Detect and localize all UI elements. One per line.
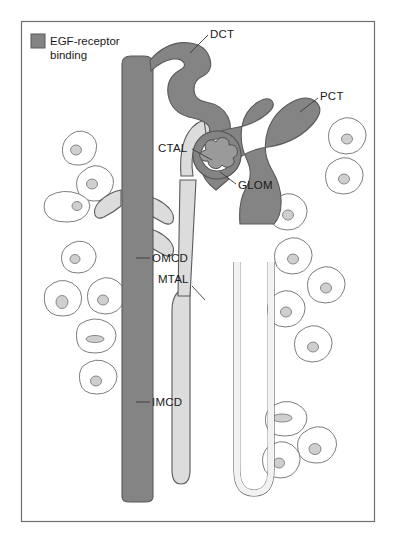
- cell: [44, 280, 81, 316]
- nephron-figure: DCT PCT CTAL GLOM OMCD MTAL IMCD EGF-rec…: [0, 0, 408, 547]
- label-glom: GLOM: [238, 179, 273, 191]
- label-imcd: IMCD: [152, 396, 182, 408]
- cell: [79, 360, 117, 394]
- egf-receptor-binding-swatch: [31, 34, 45, 48]
- cell: [329, 118, 367, 154]
- cell: [88, 278, 126, 314]
- cell: [62, 241, 97, 273]
- label-ctal: CTAL: [158, 142, 188, 154]
- nephron-diagram: DCT PCT CTAL GLOM OMCD MTAL IMCD EGF-rec…: [0, 0, 408, 547]
- cell: [44, 191, 90, 222]
- glomerulus: [193, 131, 241, 179]
- medullary-thick-ascending-limb: [172, 292, 190, 484]
- cell: [76, 319, 116, 353]
- label-pct: PCT: [320, 90, 344, 102]
- cell: [308, 267, 346, 303]
- cell: [295, 326, 333, 362]
- legend-label-line1: EGF-receptor: [50, 35, 120, 47]
- cell: [275, 238, 313, 274]
- label-omcd: OMCD: [152, 252, 188, 264]
- legend-label-line2: binding: [50, 49, 87, 61]
- label-dct: DCT: [210, 28, 234, 40]
- label-mtal: MTAL: [158, 273, 189, 285]
- cell: [326, 158, 364, 194]
- collecting-duct: [122, 56, 153, 502]
- cell: [298, 427, 337, 463]
